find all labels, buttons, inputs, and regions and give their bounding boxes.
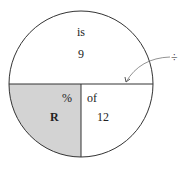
divide-symbol: ÷ <box>171 51 178 63</box>
is-label: is <box>77 26 85 38</box>
of-value: 12 <box>97 111 109 123</box>
divide-arrow <box>126 57 170 82</box>
percent-circle-diagram <box>0 0 187 170</box>
is-value: 9 <box>78 48 84 60</box>
percent-value: R <box>50 111 59 123</box>
percent-label: % <box>62 92 72 104</box>
of-label: of <box>87 92 97 104</box>
